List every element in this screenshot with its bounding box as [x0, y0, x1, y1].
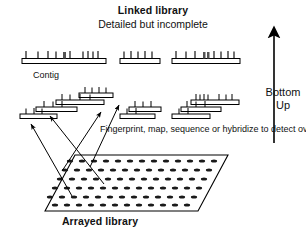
figure-root: Linked library Detailed but incomplete C…	[0, 0, 306, 239]
label-bottom-up-line2: Up	[262, 99, 304, 112]
page-title-linked-library: Linked library	[0, 5, 306, 17]
note-detect-overlaps: Fingerprint, map, sequence or hybridize …	[100, 124, 260, 135]
label-contig: Contig	[33, 70, 59, 80]
arrow-1	[31, 124, 72, 196]
contig-2	[120, 51, 160, 64]
contig-1	[22, 51, 106, 64]
subtitle-detailed-but-incomplete: Detailed but incomplete	[0, 19, 306, 31]
clone-group-left	[20, 87, 113, 119]
contig-3	[172, 51, 240, 64]
label-bottom-up: Bottom Up	[262, 86, 304, 112]
clone-m2	[129, 101, 161, 112]
clone-group-right	[172, 94, 239, 119]
label-bottom-up-line1: Bottom	[262, 86, 304, 99]
clone-r3	[191, 94, 239, 105]
arrayed-library-plane	[45, 155, 228, 211]
clone-group-middle	[120, 101, 161, 119]
diagram-canvas	[0, 0, 306, 239]
clone-l4	[79, 87, 113, 98]
page-title-arrayed-library: Arrayed library	[0, 216, 200, 228]
